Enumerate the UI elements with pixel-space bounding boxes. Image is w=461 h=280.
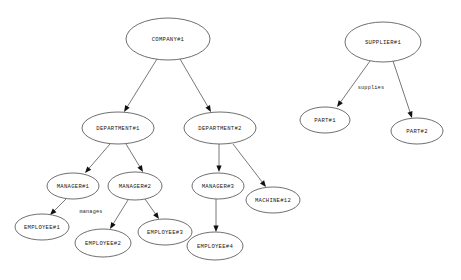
- arrowhead-icon: [260, 180, 266, 187]
- node-manager1[interactable]: MANAGER#1: [47, 173, 99, 199]
- node-department2[interactable]: DEPARTMENT#2: [184, 112, 256, 144]
- edge-line: [145, 199, 156, 214]
- arrowhead-icon: [124, 105, 130, 112]
- arrowhead-icon: [216, 166, 221, 173]
- node-employee4[interactable]: EMPLOYEE#4: [187, 232, 243, 260]
- edge-company1-to-department2: [180, 59, 211, 112]
- node-employee2[interactable]: EMPLOYEE#2: [75, 229, 131, 257]
- node-part1[interactable]: PART#1: [300, 107, 350, 133]
- node-employee1[interactable]: EMPLOYEE#1: [15, 214, 69, 240]
- edge-line: [126, 144, 140, 167]
- node-manager3[interactable]: MANAGER#3: [192, 173, 244, 199]
- node-label: MANAGER#1: [57, 183, 90, 190]
- edge-manager3-to-employee4: [213, 199, 218, 232]
- arrowhead-icon: [337, 100, 343, 107]
- edge-line: [127, 59, 157, 107]
- node-label: DEPARTMENT#2: [198, 125, 241, 132]
- arrowhead-icon: [213, 226, 218, 233]
- node-label: PART#1: [314, 117, 336, 124]
- arrowhead-icon: [137, 165, 143, 172]
- arrowhead-icon: [205, 105, 211, 112]
- arrowhead-icon: [110, 222, 116, 229]
- edge-line: [180, 59, 208, 107]
- node-label: EMPLOYEE#3: [147, 229, 183, 236]
- node-employee3[interactable]: EMPLOYEE#3: [138, 219, 192, 245]
- node-label: MANAGER#3: [202, 183, 234, 190]
- edge-line: [113, 200, 128, 224]
- node-label: DEPARTMENT#1: [96, 125, 140, 132]
- nodes-layer: COMPANY#1DEPARTMENT#1DEPARTMENT#2MANAGER…: [15, 18, 443, 260]
- node-supplier1[interactable]: SUPPLIER#1: [345, 22, 421, 62]
- node-label: EMPLOYEE#1: [24, 224, 60, 231]
- node-manager2[interactable]: MANAGER#2: [108, 172, 162, 200]
- node-label: MANAGER#2: [119, 183, 151, 190]
- edge-manager2-to-employee3: [145, 199, 159, 219]
- edge-line: [89, 144, 110, 169]
- edge-line: [340, 61, 370, 103]
- entity-instance-diagram: COMPANY#1DEPARTMENT#1DEPARTMENT#2MANAGER…: [0, 0, 461, 280]
- edge-department1-to-manager2: [126, 144, 143, 172]
- manages-label: manages: [79, 209, 102, 215]
- node-department1[interactable]: DEPARTMENT#1: [82, 112, 154, 144]
- edge-manager1-to-employee1: [50, 199, 66, 215]
- edge-department1-to-manager1: [85, 144, 110, 173]
- node-part2[interactable]: PART#2: [391, 118, 443, 144]
- arrowhead-icon: [407, 111, 412, 118]
- edge-supplier1-to-part1: [337, 61, 370, 107]
- node-label: COMPANY#1: [152, 36, 185, 43]
- edge-company1-to-department1: [124, 59, 157, 112]
- supplies-label: supplies: [358, 85, 385, 91]
- node-label: SUPPLIER#1: [365, 39, 401, 46]
- edge-manager2-to-employee2: [110, 200, 128, 229]
- edge-department2-to-manager3: [216, 144, 221, 172]
- node-label: EMPLOYEE#4: [197, 243, 233, 250]
- arrowhead-icon: [153, 212, 159, 219]
- edge-line: [393, 61, 410, 113]
- node-machine12[interactable]: MACHINE#12: [246, 187, 300, 213]
- edge-supplier1-to-part2: [393, 61, 412, 118]
- edge-line: [233, 144, 263, 183]
- node-label: MACHINE#12: [255, 197, 291, 204]
- node-company1[interactable]: COMPANY#1: [126, 18, 210, 60]
- edge-line: [54, 199, 66, 211]
- diagram-canvas: COMPANY#1DEPARTMENT#1DEPARTMENT#2MANAGER…: [0, 0, 461, 280]
- node-label: EMPLOYEE#2: [85, 240, 121, 247]
- node-label: PART#2: [406, 128, 428, 135]
